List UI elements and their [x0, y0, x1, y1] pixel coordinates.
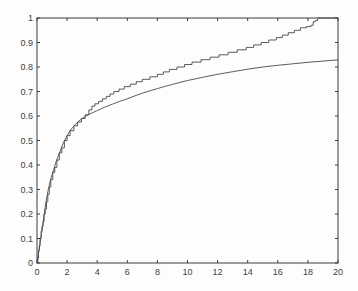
y-tick-label: 1 [28, 13, 33, 23]
x-tick-label: 10 [182, 267, 192, 277]
y-tick-label: 0.5 [20, 136, 33, 146]
x-tick-label: 8 [155, 267, 160, 277]
y-tick-label: 0.3 [20, 185, 33, 195]
x-tick-label: 12 [213, 267, 223, 277]
y-tick-label: 0.9 [20, 38, 33, 48]
x-tick-label: 4 [95, 267, 100, 277]
x-tick-label: 6 [125, 267, 130, 277]
y-tick-label: 0.7 [20, 87, 33, 97]
y-tick-label: 0.4 [20, 160, 33, 170]
plot-area [37, 18, 338, 263]
x-tick-label: 18 [303, 267, 313, 277]
x-tick-label: 0 [34, 267, 39, 277]
y-tick-label: 0.2 [20, 209, 33, 219]
x-tick-label: 14 [243, 267, 253, 277]
cdf-plot-canvas: 0246810121416182000.10.20.30.40.50.60.70… [0, 0, 358, 291]
x-tick-label: 2 [65, 267, 70, 277]
cdf-comparison-figure: 0246810121416182000.10.20.30.40.50.60.70… [0, 0, 358, 291]
y-tick-label: 0.6 [20, 111, 33, 121]
x-tick-label: 16 [273, 267, 283, 277]
y-tick-label: 0.8 [20, 62, 33, 72]
y-tick-label: 0.1 [20, 234, 33, 244]
y-tick-label: 0 [28, 258, 33, 268]
x-tick-label: 20 [333, 267, 343, 277]
